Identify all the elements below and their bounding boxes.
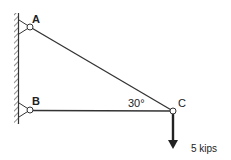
pin-c — [170, 108, 176, 114]
member-bc — [30, 111, 173, 112]
pin-b — [27, 107, 33, 113]
angle-label: 30° — [128, 97, 145, 109]
label-b: B — [32, 95, 40, 107]
wall-support — [14, 13, 19, 124]
load-label: 5 kips — [191, 143, 217, 154]
load-arrow-icon — [168, 111, 178, 149]
truss-diagram: A B C 30° 5 kips — [0, 0, 231, 160]
label-c: C — [178, 97, 186, 109]
member-ac — [30, 27, 173, 111]
label-a: A — [32, 13, 40, 25]
